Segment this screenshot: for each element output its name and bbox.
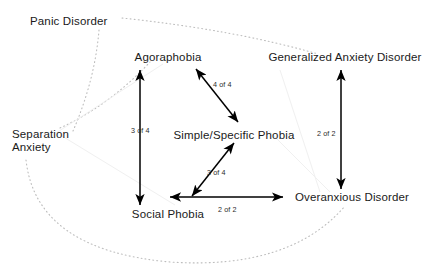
edge-faint-b [62,136,175,205]
edge-label-social-overanxious: 2 of 2 [218,205,237,214]
node-separation-anxiety-line2[interactable]: Anxiety [12,141,51,154]
node-agoraphobia[interactable]: Agoraphobia [135,51,202,64]
edge-faint-a [56,64,163,133]
edge-agoraphobia-simple [196,69,238,122]
edge-panic-gad [122,18,318,54]
node-panic-disorder[interactable]: Panic Disorder [30,15,108,28]
edge-label-simple-social: 3 of 4 [207,168,226,177]
edge-label-gad-overanxious: 2 of 2 [317,129,336,138]
edge-label-agoraphobia-simple: 4 of 4 [213,80,232,89]
edge-separation-agoraphobia [60,62,150,128]
node-overanxious-disorder[interactable]: Overanxious Disorder [295,191,409,204]
edge-panic-separation [73,30,99,131]
edge-label-agoraphobia-social: 3 of 4 [131,126,150,135]
node-separation-anxiety-line1[interactable]: Separation [12,128,69,141]
node-simple-specific-phobia[interactable]: Simple/Specific Phobia [174,129,295,142]
diagram-canvas: Panic Disorder Agoraphobia Generalized A… [0,0,429,273]
node-social-phobia[interactable]: Social Phobia [132,208,204,221]
node-generalized-anxiety-disorder[interactable]: Generalized Anxiety Disorder [268,51,421,64]
